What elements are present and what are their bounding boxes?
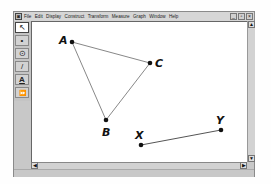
menu-construct[interactable]: Construct (65, 14, 85, 19)
menu-display[interactable]: Display (46, 14, 61, 19)
menu-transform[interactable]: Transform (88, 14, 109, 19)
text-tool[interactable]: A (15, 74, 29, 85)
straightedge-tool[interactable]: / (15, 61, 29, 72)
minimize-button[interactable]: _ (230, 13, 237, 20)
menu-edit[interactable]: Edit (35, 14, 43, 19)
menu-bar: ◙ File Edit Display Construct Transform … (14, 12, 254, 21)
status-bar (14, 169, 254, 177)
toolbox: ↖ • ⊙ / A ⏩ (14, 21, 31, 101)
close-button[interactable]: × (246, 13, 253, 20)
text-icon: A (19, 75, 25, 84)
menu-help[interactable]: Help (169, 14, 178, 19)
custom-tool[interactable]: ⏩ (15, 87, 29, 98)
vertical-scrollbar[interactable]: ▲ ▼ (247, 21, 255, 162)
point-tool[interactable]: • (15, 35, 29, 46)
menu-graph[interactable]: Graph (133, 14, 146, 19)
scroll-down-button[interactable]: ▼ (248, 155, 255, 162)
window-controls: _ ▫ × (230, 13, 253, 20)
sketchpad-window: ◙ File Edit Display Construct Transform … (13, 11, 255, 177)
arrow-icon: ↖ (19, 23, 26, 32)
maximize-button[interactable]: ▫ (238, 13, 245, 20)
menu-file[interactable]: File (24, 14, 31, 19)
compass-tool[interactable]: ⊙ (15, 48, 29, 59)
scroll-up-button[interactable]: ▲ (248, 21, 255, 28)
sketch-canvas[interactable] (31, 21, 247, 162)
scroll-right-button[interactable]: ▶ (240, 162, 247, 169)
menu-window[interactable]: Window (149, 14, 165, 19)
straightedge-icon: / (21, 62, 23, 71)
custom-tool-icon: ⏩ (19, 89, 26, 96)
horizontal-scrollbar[interactable]: ◀ ▶ (31, 162, 247, 169)
compass-icon: ⊙ (19, 49, 26, 58)
scroll-left-button[interactable]: ◀ (31, 162, 38, 169)
point-icon: • (21, 36, 24, 45)
menu-measure[interactable]: Measure (112, 14, 130, 19)
app-icon[interactable]: ◙ (15, 13, 22, 20)
selection-arrow-tool[interactable]: ↖ (15, 22, 29, 33)
